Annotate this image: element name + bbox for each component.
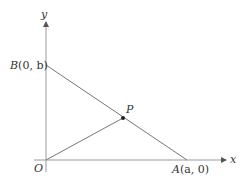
segment-op bbox=[46, 118, 123, 160]
point-p bbox=[121, 116, 125, 120]
x-axis-label: x bbox=[230, 153, 237, 166]
point-b-name: B bbox=[9, 59, 18, 72]
point-a-coords: (a, 0) bbox=[180, 163, 209, 176]
point-p-label: P bbox=[125, 103, 134, 116]
y-axis-label: y bbox=[40, 8, 48, 21]
origin-label: O bbox=[34, 162, 43, 175]
coordinate-diagram: y x O P B(0, b) A(a, 0) bbox=[0, 0, 248, 180]
point-b-label: B(0, b) bbox=[9, 59, 48, 72]
point-a-label: A(a, 0) bbox=[171, 163, 209, 176]
point-b-coords: (0, b) bbox=[18, 59, 48, 72]
point-a-name: A bbox=[171, 163, 180, 176]
segment-ab bbox=[46, 65, 187, 160]
